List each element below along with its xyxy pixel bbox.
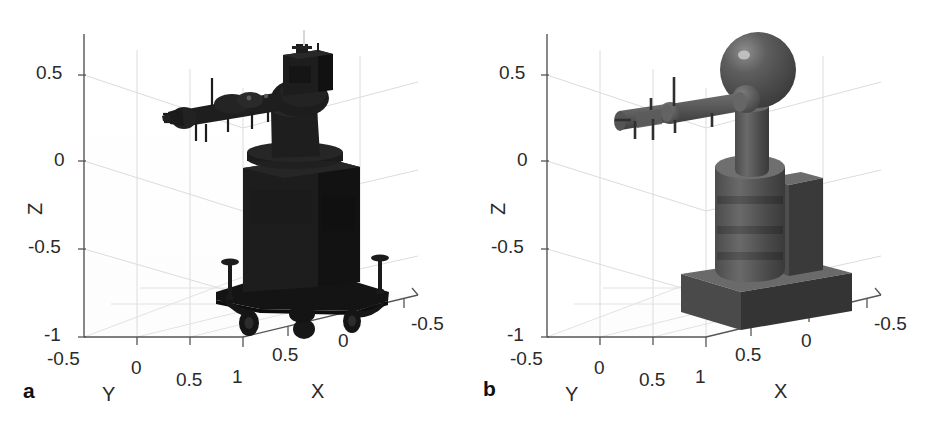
panel-a-x-axis-label: X bbox=[311, 380, 324, 403]
panel-b-ytick-1: 0 bbox=[594, 357, 605, 379]
panel-a-ztick-1: 0 bbox=[54, 149, 65, 171]
panel-a-ztick-2: -0.5 bbox=[28, 236, 61, 258]
panel-a-xtick-2: 0 bbox=[338, 330, 349, 352]
back-plate-front bbox=[789, 178, 823, 276]
figure-root: a 0.5 0 -0.5 -1 Z -0.5 0 0.5 1 Y 0.5 0 -… bbox=[0, 0, 926, 426]
panel-b-ztick-3: -1 bbox=[507, 324, 524, 346]
panel-b-y-axis-label: Y bbox=[565, 383, 578, 406]
panel-a-z-axis-label: Z bbox=[24, 203, 47, 215]
body-cylinder-side bbox=[715, 167, 785, 282]
panel-a-xtick-1: 0.5 bbox=[272, 344, 298, 366]
panel-b-ytick-3: 1 bbox=[695, 366, 706, 388]
neck-cylinder-side bbox=[735, 106, 769, 177]
panel-a-ytick-2: 0.5 bbox=[176, 369, 202, 391]
panel-b-xtick-1: 0.5 bbox=[735, 344, 761, 366]
panel-b-xtick-2: 0 bbox=[801, 330, 812, 352]
panel-a-ytick-0: -0.5 bbox=[47, 348, 80, 370]
panel-a-ytick-3: 1 bbox=[232, 366, 243, 388]
panel-b-x-axis-label: X bbox=[774, 380, 787, 403]
panel-b-ztick-1: 0 bbox=[517, 149, 528, 171]
panel-a: a 0.5 0 -0.5 -1 Z -0.5 0 0.5 1 Y 0.5 0 -… bbox=[0, 0, 463, 426]
forearm-cap-right bbox=[662, 104, 673, 122]
panel-a-ytick-1: 0 bbox=[131, 357, 142, 379]
panel-a-ztick-0: 0.5 bbox=[36, 62, 62, 84]
panel-a-letter: a bbox=[23, 379, 35, 403]
panel-b-ztick-2: -0.5 bbox=[491, 236, 524, 258]
panel-b-letter: b bbox=[483, 377, 496, 401]
panel-a-ztick-3: -1 bbox=[44, 324, 61, 346]
panel-b-ytick-2: 0.5 bbox=[639, 369, 665, 391]
panel-b: b 0.5 0 -0.5 -1 Z -0.5 0 0.5 1 Y 0.5 0 -… bbox=[463, 0, 926, 426]
upper-arm-cap-right bbox=[733, 92, 747, 112]
panel-b-ztick-0: 0.5 bbox=[499, 62, 525, 84]
head-sphere-specular bbox=[738, 51, 750, 60]
panel-b-xtick-3: -0.5 bbox=[874, 313, 907, 335]
panel-a-y-axis-label: Y bbox=[102, 383, 115, 406]
panel-a-xtick-3: -0.5 bbox=[411, 313, 444, 335]
panel-b-z-axis-label: Z bbox=[487, 203, 510, 215]
panel-b-ytick-0: -0.5 bbox=[510, 348, 543, 370]
